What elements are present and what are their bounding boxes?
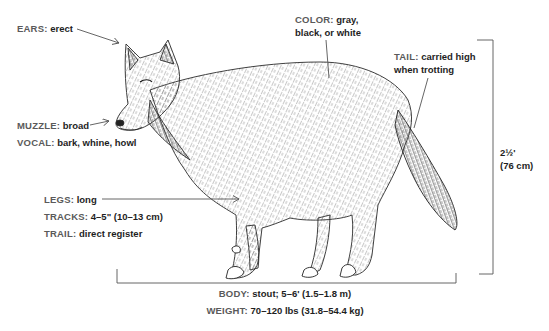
muzzle-arrow — [90, 121, 109, 125]
weight-label: WEIGHT: 70–120 lbs (31.8–54.4 kg) — [190, 304, 380, 317]
tracks-label: TRACKS: 4–5" (10–13 cm) — [44, 210, 163, 223]
color-label: COLOR: gray, black, or white — [295, 13, 361, 39]
tail-leader — [414, 78, 428, 128]
ears-label: EARS: erect — [17, 22, 73, 35]
tail-label: TAIL: carried high when trotting — [394, 50, 476, 76]
height-bracket — [477, 40, 493, 274]
body-label: BODY: stout; 5–6' (1.5–1.8 m) — [200, 287, 370, 300]
ears-arrow — [77, 29, 119, 43]
trail-label: TRAIL: direct register — [44, 227, 142, 240]
body-length-bracket — [117, 269, 456, 283]
muzzle-label: MUZZLE: broad — [17, 119, 89, 132]
height-label: 2½' (76 cm) — [500, 146, 533, 172]
wolf-body — [150, 62, 412, 278]
wolf-tail — [395, 110, 457, 230]
vocal-label: VOCAL: bark, whine, howl — [17, 136, 136, 149]
legs-label: LEGS: long — [44, 193, 97, 206]
